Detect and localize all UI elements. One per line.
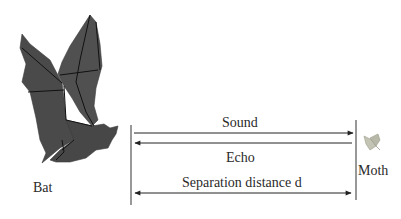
bat-label: Bat [33, 180, 52, 196]
separation-label: Separation distance d [182, 175, 302, 191]
moth-label: Moth [358, 163, 388, 179]
origami-bat-icon [20, 15, 118, 163]
moth-icon [364, 134, 380, 150]
echo-label: Echo [226, 150, 255, 166]
sound-label: Sound [222, 115, 258, 131]
